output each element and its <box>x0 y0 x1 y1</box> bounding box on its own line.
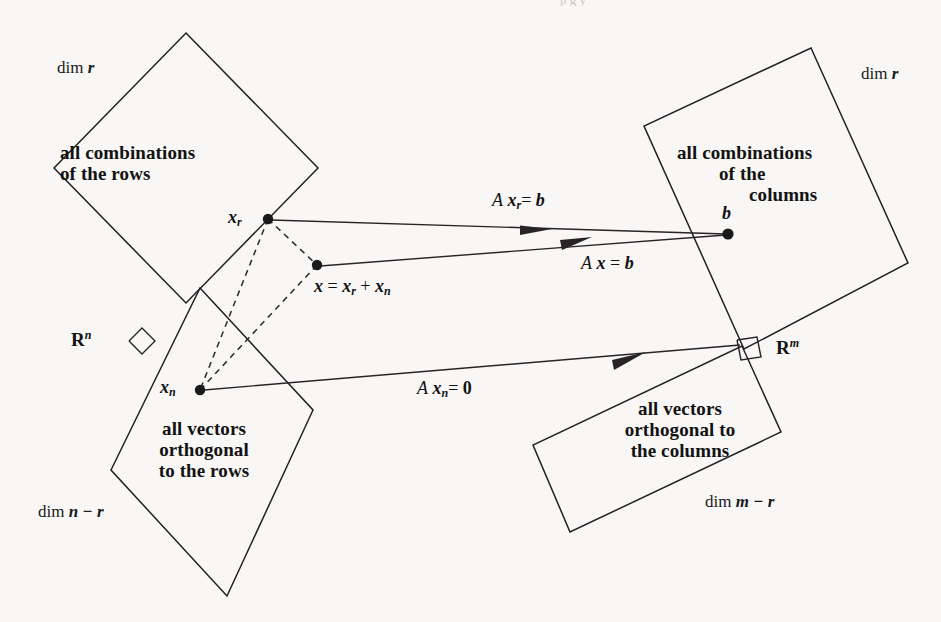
point-label-x-n-sub: n <box>169 385 176 399</box>
eq-top-equals: = <box>521 190 531 210</box>
rn-symbol: R <box>71 329 85 350</box>
equation-axn-eq-zero: A xn= 0 <box>417 378 472 401</box>
eq-top-vector: x <box>508 190 517 210</box>
rm-symbol: R <box>776 337 790 358</box>
point-x <box>312 260 322 270</box>
row-space-label: all combinations of the rows <box>60 142 195 184</box>
null-space-label: all vectors orthogonal to the rows <box>119 418 289 481</box>
row-space-label-line2: of the rows <box>60 163 195 184</box>
eq-bot-vector: x <box>433 378 442 398</box>
decomposition-dashed-path <box>200 219 317 390</box>
decomposition-equation: x = xr + xn <box>314 276 391 299</box>
arrow-ax-eq-b <box>320 235 726 266</box>
left-null-space-label-line3: the columns <box>585 440 775 461</box>
point-label-x-r-base: x <box>228 207 237 227</box>
point-label-x-r: xr <box>228 207 242 230</box>
column-space-dim-value: r <box>892 64 899 83</box>
rn-exponent: n <box>85 328 92 342</box>
row-space-dim-label: dim r <box>57 58 94 78</box>
row-space-label-line1: all combinations <box>60 142 195 163</box>
point-x-r <box>263 214 273 224</box>
arrow-axr-eq-b <box>271 220 726 234</box>
ambient-space-rn-label: Rn <box>71 328 91 351</box>
linear-algebra-big-picture-figure: p g y dim r <box>0 0 941 622</box>
null-space-dim-prefix: dim <box>38 502 64 521</box>
null-space-dim-label: dim n − r <box>38 502 104 522</box>
eq-bot-operator: A <box>417 378 428 398</box>
eq-top-operator: A <box>492 190 503 210</box>
null-space-label-line3: to the rows <box>119 460 289 481</box>
row-space-dim-value: r <box>88 58 95 77</box>
column-space-dim-prefix: dim <box>861 64 887 83</box>
eq-bot-equals: = <box>448 378 458 398</box>
left-null-space-dim-prefix: dim <box>705 492 731 511</box>
point-label-x-n-base: x <box>160 377 169 397</box>
point-b <box>722 228 733 239</box>
arrow-axn-eq-zero <box>204 345 740 390</box>
point-label-b: b <box>722 203 731 224</box>
left-null-space-label-line1: all vectors <box>585 398 775 419</box>
equation-axr-eq-b: A xr= b <box>492 190 545 213</box>
left-null-space-label: all vectors orthogonal to the columns <box>585 398 775 461</box>
null-space-dim-value: n − r <box>69 502 104 521</box>
column-space-dim-label: dim r <box>861 64 898 84</box>
eq-mid-vector: x <box>597 253 606 273</box>
eq-mid-result: b <box>625 253 634 273</box>
eq-mid-equals: = <box>610 253 620 273</box>
null-space-label-line1: all vectors <box>119 418 289 439</box>
eq-top-result: b <box>536 190 545 210</box>
cropped-page-text-above: p g y <box>560 0 941 6</box>
eq-mid-operator: A <box>581 253 592 273</box>
left-null-space-dim-label: dim m − r <box>705 492 774 512</box>
ambient-space-rm-label: Rm <box>776 336 799 359</box>
eq-bot-result: 0 <box>463 378 472 398</box>
column-space-label-line2: of the <box>677 163 817 184</box>
arrowhead-ax <box>560 237 592 250</box>
column-space-label-line3: columns <box>677 184 817 205</box>
row-space-dim-prefix: dim <box>57 58 83 77</box>
arrowhead-axr <box>520 226 552 236</box>
right-angle-marker-rn <box>129 328 155 354</box>
column-space-label-line1: all combinations <box>677 142 817 163</box>
point-label-x-r-sub: r <box>237 215 242 229</box>
point-x-n <box>195 385 205 395</box>
rm-exponent: m <box>790 336 799 350</box>
diagram-canvas <box>0 0 941 622</box>
equation-ax-eq-b: A x = b <box>581 253 634 274</box>
left-null-space-label-line2: orthogonal to <box>585 419 775 440</box>
point-label-x-n: xn <box>160 377 176 400</box>
left-null-space-dim-value: m − r <box>736 492 775 511</box>
null-space-label-line2: orthogonal <box>119 439 289 460</box>
column-space-label: all combinations of the columns <box>677 142 817 205</box>
